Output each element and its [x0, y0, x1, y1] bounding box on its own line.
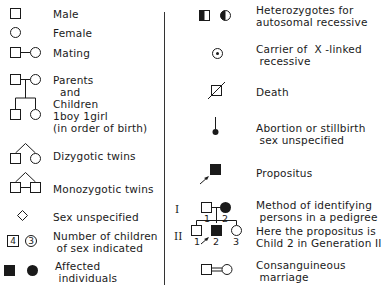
affected-icon [4, 265, 40, 277]
label-abortion: Abortion or stillbirth [256, 122, 366, 134]
gen2-number-1: 1 [194, 236, 200, 248]
label-monozygotic: Monozygotic twins [53, 183, 154, 195]
label-autosomal-recessive: autosomal recessive [256, 16, 368, 28]
label-abortion-sex: sex unspecified [256, 134, 344, 146]
label-carrier: Carrier of X -linked [256, 43, 362, 55]
mating-icon [10, 47, 42, 59]
label-dizygotic: Dizygotic twins [53, 150, 136, 162]
abortion-stalk-dot-icon [211, 117, 221, 137]
label-parents: Parents [53, 74, 93, 86]
dizygotic-twins-icon [10, 143, 42, 165]
death-slashed-square-icon [208, 82, 226, 100]
generation-I-label: I [175, 203, 179, 215]
label-and: and [53, 86, 80, 98]
label-child-2-gen-II: Child 2 in Generation II [256, 237, 382, 249]
count-male: 4 [10, 236, 16, 246]
label-male: Male [53, 8, 79, 20]
column-divider [164, 12, 165, 285]
propositus-icon [199, 163, 225, 185]
generation-II-label: II [174, 230, 183, 242]
label-heterozygotes: Heterozygotes for [256, 4, 353, 16]
label-persons-pedigree: persons in a pedigree [256, 211, 378, 223]
label-propositus: Propositus [256, 167, 312, 179]
carrier-dotted-circle-icon [212, 48, 224, 60]
label-consanguineous: Consanguineous [256, 259, 346, 271]
numbered-square-icon: 4 [7, 235, 19, 247]
label-sex-indicated: of sex indicated [53, 242, 143, 254]
label-method-identifying: Method of identifying [256, 199, 372, 211]
monozygotic-twins-icon [10, 172, 42, 194]
label-birth-order: (in order of birth) [53, 122, 147, 134]
numbered-circle-icon: 3 [25, 235, 37, 247]
label-death: Death [256, 86, 289, 98]
label-sex-unspecified: Sex unspecified [53, 211, 139, 223]
label-propositus-is: Here the propositus is [256, 225, 376, 237]
label-number-children: Number of children [53, 230, 158, 242]
heterozygote-icon [199, 10, 233, 22]
label-boy-girl: 1boy 1girl [53, 110, 108, 122]
gen1-number-2: 2 [222, 213, 228, 225]
label-marriage: marriage [256, 271, 309, 283]
label-individuals: individuals [55, 272, 117, 284]
label-female: Female [53, 27, 92, 39]
female-circle-icon [10, 27, 22, 39]
diamond-icon [17, 210, 29, 222]
consanguineous-icon [201, 264, 233, 276]
label-affected: Affected [55, 260, 100, 272]
parents-children-icon [10, 74, 42, 126]
label-children: Children [53, 98, 98, 110]
label-mating: Mating [53, 47, 90, 59]
count-female: 3 [28, 236, 34, 246]
male-square-icon [10, 8, 22, 20]
gen1-number-1: 1 [204, 213, 210, 225]
label-x-recessive: recessive [256, 55, 311, 67]
gen2-number-3: 3 [233, 236, 239, 248]
gen2-number-2: 2 [213, 236, 219, 248]
